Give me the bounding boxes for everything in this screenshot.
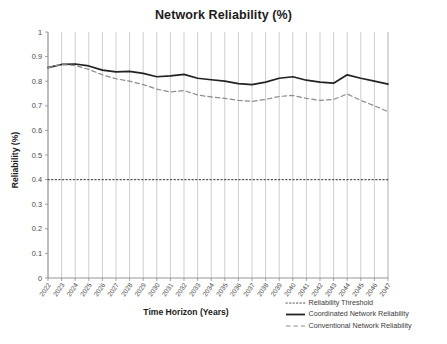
x-tick-label: 2029 [133,281,147,297]
x-tick-label: 2031 [160,281,174,297]
x-tick-label: 2032 [174,281,188,297]
y-axis-title: Reliability (%) [10,132,20,188]
x-tick-label: 2036 [228,281,242,297]
y-tick-label: 0.5 [32,151,42,160]
x-axis-title: Time Horizon (Years) [143,307,228,317]
x-tick-label: 2044 [337,281,351,297]
network-reliability-chart: Network Reliability (%) 00.10.20.30.40.5… [0,0,447,344]
chart-canvas: 00.10.20.30.40.50.60.70.80.91 2022202320… [0,0,447,344]
y-tick-label: 0.3 [32,200,42,209]
x-tick-label: 2035 [215,281,229,297]
x-axis-ticks: 2022202320242025202620272028202920302031… [38,278,392,298]
x-tick-label: 2022 [38,281,52,297]
x-tick-label: 2027 [106,281,120,297]
x-tick-label: 2041 [296,281,310,297]
data-series [48,64,388,112]
x-tick-label: 2040 [283,281,297,297]
y-axis-ticks: 00.10.20.30.40.50.60.70.80.91 [32,28,48,283]
x-tick-label: 2023 [51,281,65,297]
chart-legend: Reliability ThresholdCoordinated Network… [286,298,412,330]
x-tick-label: 2025 [79,281,93,297]
x-tick-label: 2042 [310,281,324,297]
x-tick-label: 2030 [147,281,161,297]
x-tick-label: 2034 [201,281,215,297]
legend-label: Reliability Threshold [309,298,374,307]
y-tick-label: 0.9 [32,52,42,61]
y-tick-label: 0.2 [32,224,42,233]
x-tick-label: 2028 [119,281,133,297]
x-tick-label: 2024 [65,281,79,297]
series-line-conventional [48,64,388,111]
y-tick-label: 1 [38,28,42,37]
x-tick-label: 2039 [269,281,283,297]
x-tick-label: 2033 [187,281,201,297]
x-tick-label: 2046 [364,281,378,297]
y-tick-label: 0 [38,274,42,283]
legend-label: Conventional Network Reliability [309,321,412,330]
x-tick-label: 2045 [351,281,365,297]
series-line-coordinated [48,64,388,85]
y-tick-label: 0.4 [32,175,42,184]
x-tick-label: 2043 [323,281,337,297]
y-tick-label: 0.7 [32,101,42,110]
x-tick-label: 2038 [255,281,269,297]
x-tick-label: 2037 [242,281,256,297]
y-tick-label: 0.6 [32,126,42,135]
y-tick-label: 0.8 [32,77,42,86]
legend-label: Coordinated Network Reliability [309,309,410,318]
x-tick-label: 2047 [378,281,392,297]
y-tick-label: 0.1 [32,249,42,258]
x-tick-label: 2026 [92,281,106,297]
